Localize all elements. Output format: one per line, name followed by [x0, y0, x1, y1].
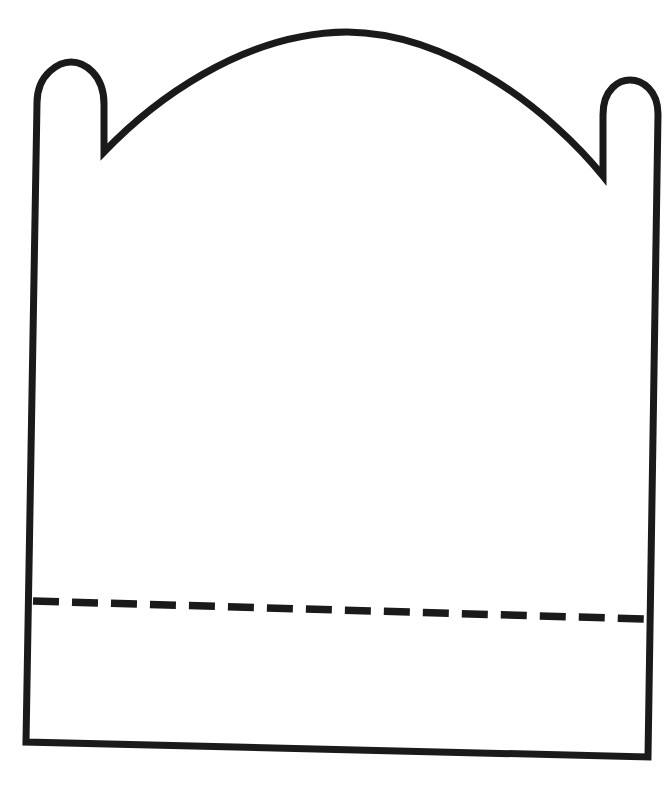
drawing-canvas: [0, 0, 672, 788]
plaque-outline-shape: [26, 32, 658, 757]
line-art-illustration: [0, 0, 672, 788]
